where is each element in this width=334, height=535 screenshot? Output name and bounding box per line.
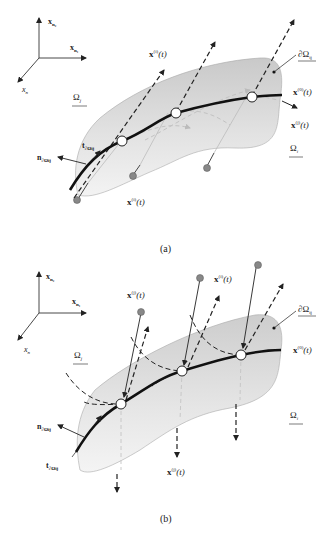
- source-dot: [138, 309, 145, 316]
- intersection-node: [247, 92, 257, 102]
- source-dots-b: [138, 262, 262, 316]
- axis-right-label: xn₁: [72, 297, 81, 307]
- xj-i-label-b: x(i)(t): [214, 274, 232, 284]
- axis-diag-label: xn: [23, 345, 31, 355]
- x0-label-a: x(0)(t): [293, 87, 312, 97]
- boundary-leader-line: [274, 311, 296, 328]
- xi-j-label-a: x(j)(t): [291, 120, 309, 130]
- panel-b: xn₂ xn₁ xn: [18, 262, 316, 526]
- boundary-label-b: ∂Ωij: [298, 304, 312, 315]
- normal-label-b: n∂Ωij: [37, 422, 51, 432]
- intersection-node: [177, 366, 187, 376]
- caption-b: (b): [160, 513, 172, 525]
- intersection-node: [117, 136, 127, 146]
- caption-a: (a): [160, 243, 171, 255]
- omega-i-label-a: Ωi: [290, 143, 299, 154]
- intersection-node: [116, 399, 126, 409]
- source-dot: [204, 165, 211, 172]
- xi-j-arrow: [282, 101, 297, 108]
- xj-i-label-a: x(i)(t): [149, 49, 167, 59]
- source-dot: [255, 262, 262, 269]
- x0-label-b: x(0)(t): [293, 345, 312, 355]
- axis-diag-arrow: [18, 313, 39, 340]
- region-surface-b: [77, 315, 282, 472]
- intersection-node: [171, 108, 181, 118]
- axis-diag-arrow: [18, 58, 39, 82]
- intersection-node: [236, 350, 246, 360]
- xj-top-label-b: x(j)(t): [127, 290, 145, 300]
- source-dot: [130, 173, 137, 180]
- source-dot: [197, 275, 204, 282]
- tangent-label-b: t∂Ωij: [46, 461, 59, 471]
- panel-a: xn₂ xn₁ xn: [18, 17, 316, 255]
- region-surface-a: [76, 58, 282, 196]
- axis-triad-b: xn₂ xn₁ xn: [18, 272, 86, 355]
- axis-right-label: xn₁: [70, 43, 79, 53]
- figure-canvas: xn₂ xn₁ xn: [0, 0, 334, 535]
- omega-j-label-b: Ωj: [74, 350, 83, 361]
- axis-diag-label: xn: [21, 85, 29, 95]
- normal-label-a: n∂Ωij: [37, 153, 51, 163]
- boundary-leader-line: [274, 55, 296, 72]
- xi-bottom-label-a: x(i)(t): [127, 197, 145, 207]
- xi-j-label-b: x(j)(t): [167, 467, 185, 477]
- boundary-label-a: ∂Ωij: [298, 49, 312, 60]
- axis-up-label: xn₂: [48, 17, 57, 27]
- axis-up-label: xn₂: [46, 272, 55, 282]
- omega-i-label-b: Ωi: [290, 410, 299, 421]
- omega-j-label-a: Ωj: [73, 92, 82, 103]
- tangent-leader-line: [72, 449, 78, 457]
- axis-triad-a: xn₂ xn₁ xn: [18, 17, 86, 95]
